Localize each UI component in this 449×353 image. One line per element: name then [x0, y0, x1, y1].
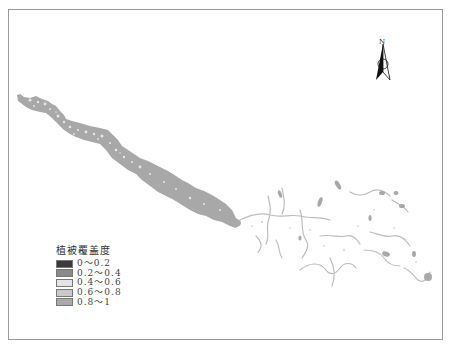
north-arrow-icon: [372, 40, 394, 86]
tributary-light-patches: [251, 205, 417, 263]
legend-label: 0.8～1: [77, 298, 111, 307]
legend-swatch: [56, 289, 73, 297]
legend: 植被覆盖度 0～0.2 0.2～0.4 0.4～0.6 0.6～0.8 0.8～…: [56, 242, 122, 307]
legend-item: 0.6～0.8: [56, 288, 122, 298]
legend-title: 植被覆盖度: [56, 242, 122, 257]
legend-swatch: [56, 279, 73, 287]
legend-swatch: [56, 260, 73, 268]
tributary-vegetation-patches: [231, 180, 432, 281]
legend-label: 0～0.2: [77, 259, 111, 268]
legend-label: 0.6～0.8: [77, 288, 122, 297]
legend-item: 0.8～1: [56, 297, 122, 307]
tributary-network: [240, 188, 430, 286]
legend-swatch: [56, 269, 73, 277]
legend-swatch: [56, 298, 73, 306]
main-river-corridor: [17, 94, 240, 228]
